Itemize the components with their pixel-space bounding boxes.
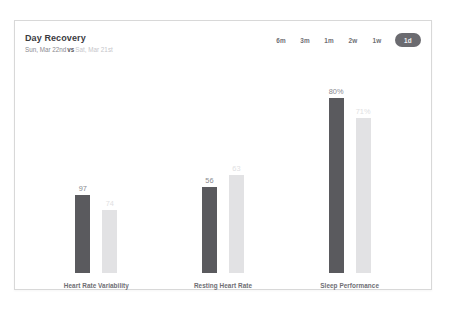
title-block: Day Recovery Sun, Mar 22ndvsSat, Mar 21s…: [25, 33, 113, 54]
bar-pair: 80% 71%: [329, 87, 371, 273]
bar-previous[interactable]: [102, 210, 117, 273]
range-option-6m[interactable]: 6m: [269, 34, 293, 47]
bar-value-previous: 71%: [356, 107, 371, 116]
range-option-1m[interactable]: 1m: [317, 34, 341, 47]
bar-value-current: 56: [205, 176, 213, 185]
range-option-1w[interactable]: 1w: [365, 34, 389, 47]
bar-group-label: Resting Heart Rate: [194, 282, 252, 289]
day-recovery-card: Day Recovery Sun, Mar 22ndvsSat, Mar 21s…: [14, 20, 432, 290]
bar-group-label: Heart Rate Variability: [64, 282, 129, 289]
bar-group-resting-heart-rate: 56 63 Resting Heart Rate: [160, 73, 285, 289]
subtitle-current-date: Sun, Mar 22nd: [25, 46, 66, 53]
bar-group-heart-rate-variability: 97 74 Heart Rate Variability: [34, 73, 159, 289]
bar-column-current: 56: [202, 87, 217, 273]
bar-value-previous: 63: [232, 164, 240, 173]
bar-column-previous: 71%: [356, 87, 371, 273]
bar-chart-plot: 97 74 Heart Rate Variability: [33, 73, 413, 289]
page-title: Day Recovery: [25, 33, 113, 44]
card-subtitle: Sun, Mar 22ndvsSat, Mar 21st: [25, 45, 113, 54]
bar-column-current: 80%: [329, 87, 344, 273]
bar-column-current: 97: [75, 87, 90, 273]
bar-value-previous: 74: [106, 199, 114, 208]
bar-value-current: 97: [79, 184, 87, 193]
bar-previous[interactable]: [229, 175, 244, 273]
subtitle-compare-date: Sat, Mar 21st: [75, 46, 112, 53]
bar-groups: 97 74 Heart Rate Variability: [33, 73, 413, 289]
bar-current[interactable]: [329, 98, 344, 273]
bar-pair: 56 63: [202, 87, 244, 273]
bar-current[interactable]: [75, 195, 90, 273]
bar-column-previous: 74: [102, 87, 117, 273]
range-option-3m[interactable]: 3m: [293, 34, 317, 47]
bar-group-label: Sleep Performance: [320, 282, 379, 289]
card-header: Day Recovery Sun, Mar 22ndvsSat, Mar 21s…: [15, 21, 431, 67]
range-option-1d[interactable]: 1d: [395, 33, 421, 47]
page-root: Day Recovery Sun, Mar 22ndvsSat, Mar 21s…: [0, 0, 450, 310]
bar-previous[interactable]: [356, 118, 371, 273]
subtitle-vs-label: vs: [66, 46, 75, 53]
bar-value-current: 80%: [329, 87, 344, 96]
bar-column-previous: 63: [229, 87, 244, 273]
chart-area: 97 74 Heart Rate Variability: [15, 67, 431, 289]
bar-current[interactable]: [202, 187, 217, 273]
bar-pair: 97 74: [75, 87, 117, 273]
range-selector: 6m 3m 1m 2w 1w 1d: [269, 33, 421, 47]
bar-group-sleep-performance: 80% 71% Sleep Performance: [287, 73, 412, 289]
range-option-2w[interactable]: 2w: [341, 34, 365, 47]
